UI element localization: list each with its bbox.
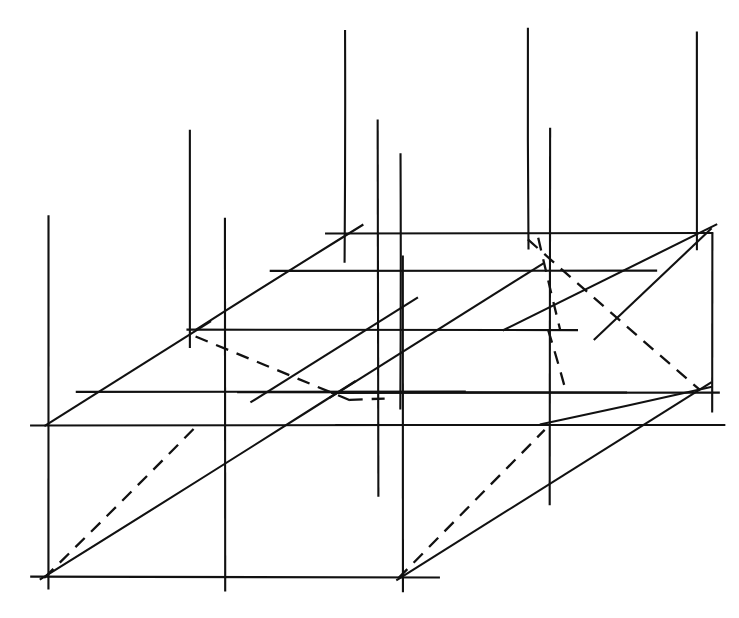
vertical-post-5 xyxy=(378,120,379,497)
figure-root: Oblique projection of a parallelepiped l… xyxy=(0,0,739,618)
lattice-diagram: Oblique projection of a parallelepiped l… xyxy=(0,0,739,618)
vertical-post-8 xyxy=(528,28,529,250)
horizontal-rail-9 xyxy=(30,577,440,578)
horizontal-rail-3 xyxy=(186,330,578,331)
vertical-post-4 xyxy=(345,30,346,263)
canvas-background xyxy=(0,0,739,618)
